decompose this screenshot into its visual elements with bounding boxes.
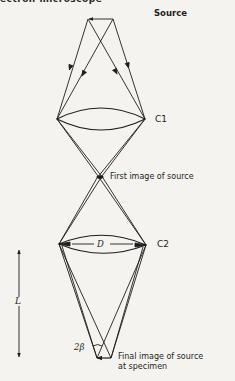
first-image-label: First image of source: [110, 173, 194, 181]
electron-optics-diagram: ectron microscope Source C1 First image …: [0, 0, 235, 381]
c1-label: C1: [155, 115, 167, 124]
length-label: L: [15, 297, 21, 306]
c2-label: C2: [157, 240, 169, 249]
final-image-label-line1: Final image of source: [118, 352, 203, 362]
first-image-marker: [97, 175, 104, 179]
page-header: ectron microscope: [0, 0, 102, 4]
source-label: Source: [154, 9, 187, 18]
aperture-diameter-label: D: [96, 240, 105, 249]
ray-diagram: [0, 0, 235, 381]
angle-label: 2β: [74, 343, 84, 352]
c1-lens: [57, 108, 145, 130]
final-image-label-line2: at specimen: [118, 362, 203, 372]
final-image-label: Final image of source at specimen: [118, 352, 203, 372]
